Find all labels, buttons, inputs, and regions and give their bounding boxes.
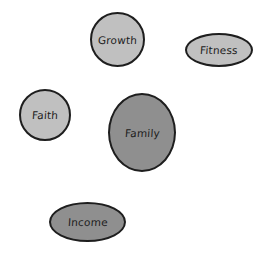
node-income-label: Income [67, 216, 108, 228]
node-growth-label: Growth [97, 34, 137, 46]
node-faith-label: Faith [31, 109, 58, 121]
node-growth[interactable]: Growth [90, 12, 145, 67]
node-family-label: Family [124, 127, 160, 139]
node-income[interactable]: Income [49, 202, 126, 242]
node-fitness[interactable]: Fitness [185, 33, 253, 67]
diagram-canvas: Growth Fitness Faith Family Income [0, 0, 273, 253]
node-fitness-label: Fitness [200, 44, 239, 56]
node-faith[interactable]: Faith [19, 89, 71, 141]
node-family[interactable]: Family [108, 93, 176, 172]
